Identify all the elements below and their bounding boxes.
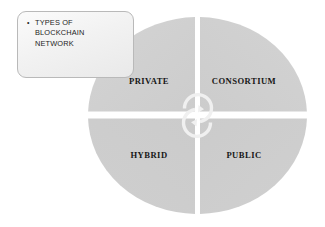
title-bullet-list: TYPES OF BLOCKCHAIN NETWORK [25, 18, 85, 49]
quadrant-label-hybrid: HYBRID [107, 150, 191, 160]
title-callout-box[interactable]: TYPES OF BLOCKCHAIN NETWORK [17, 11, 134, 78]
quadrant-label-public: PUBLIC [199, 150, 289, 160]
slide-canvas: PRIVATE CONSORTIUM HYBRID PUBLIC TYPES O… [0, 0, 325, 227]
quadrant-label-consortium: CONSORTIUM [199, 76, 289, 86]
title-bullet-item: TYPES OF BLOCKCHAIN NETWORK [35, 18, 85, 49]
